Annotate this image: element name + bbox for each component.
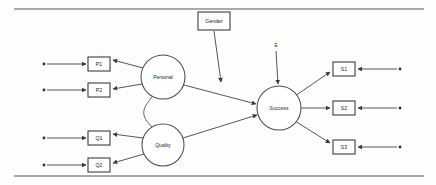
latent-circle-personal-label: Personal	[153, 74, 173, 80]
error-term-s1	[358, 68, 401, 71]
observed-box-q1: Q1	[88, 131, 110, 145]
latent-circle-success: Success	[257, 86, 301, 130]
observed-box-s3-label: S3	[341, 144, 347, 150]
latent-circle-quality: Quality	[142, 124, 184, 166]
error-term-p1	[43, 63, 86, 66]
path-personal-quality-correlation	[144, 97, 152, 127]
observed-box-p1: P1	[88, 57, 110, 71]
exogenous-box-gender-label: Gender	[205, 18, 223, 24]
observed-box-q1-label: Q1	[96, 135, 103, 141]
path-personal-to-p1	[113, 60, 143, 68]
path-quality-to-q1	[113, 134, 143, 138]
error-term-q1	[43, 137, 86, 140]
path-personal-to-p2	[113, 84, 142, 89]
path-gender-to-success	[214, 31, 221, 82]
path-e-to-success	[276, 51, 278, 84]
observed-box-p1-label: P1	[96, 61, 102, 67]
observed-box-q2-label: Q2	[96, 162, 103, 168]
observed-box-s3: S3	[333, 140, 355, 154]
exogenous-box-gender: Gender	[198, 12, 230, 30]
path-personal-to-success	[184, 85, 256, 104]
error-term-s3	[358, 146, 401, 149]
observed-box-s1-label: S1	[341, 66, 347, 72]
observed-box-p2: P2	[88, 83, 110, 97]
path-success-to-s1	[295, 72, 330, 96]
latent-circle-personal: Personal	[141, 55, 185, 99]
disturbance-label-e: E	[274, 43, 277, 48]
observed-box-p2-label: P2	[96, 87, 102, 93]
path-quality-to-success	[183, 115, 257, 138]
error-term-q2	[43, 164, 86, 167]
path-diagram: P1 P2 Q1 Q2 S1 S2 S3 Gender	[0, 0, 436, 185]
observed-box-s2: S2	[333, 101, 355, 115]
observed-box-q2: Q2	[88, 158, 110, 172]
latent-circle-quality-label: Quality	[155, 142, 171, 148]
path-success-to-s3	[295, 121, 330, 143]
path-quality-to-q2	[113, 154, 144, 163]
error-term-s2	[358, 107, 401, 110]
error-term-p2	[43, 89, 86, 92]
observed-box-s1: S1	[333, 62, 355, 76]
observed-box-s2-label: S2	[341, 105, 347, 111]
diagram-canvas: P1 P2 Q1 Q2 S1 S2 S3 Gender	[0, 0, 436, 185]
latent-circle-success-label: Success	[270, 105, 289, 111]
